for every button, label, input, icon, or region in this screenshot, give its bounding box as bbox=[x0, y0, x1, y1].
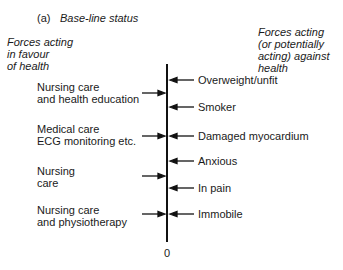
left-force-label: Nursing bbox=[37, 165, 75, 177]
right-force-label: Anxious bbox=[198, 155, 237, 167]
left-force-label: Nursing care bbox=[37, 81, 99, 93]
left-force-label: ECG monitoring etc. bbox=[37, 135, 136, 147]
right-force-label: Overweight/unfit bbox=[198, 74, 277, 86]
right-force-label: In pain bbox=[198, 182, 231, 194]
left-force-label: and health education bbox=[37, 93, 139, 105]
right-force-label: Smoker bbox=[198, 101, 236, 113]
left-arrows bbox=[142, 91, 165, 217]
right-force-label: Damaged myocardium bbox=[198, 130, 309, 142]
left-force-label: care bbox=[37, 177, 58, 189]
left-force-label: Nursing care bbox=[37, 204, 99, 216]
right-force-label: Immobile bbox=[198, 208, 243, 220]
right-arrows bbox=[170, 78, 194, 217]
left-force-label: Medical care bbox=[37, 123, 99, 135]
left-force-label: and physiotherapy bbox=[37, 216, 127, 228]
